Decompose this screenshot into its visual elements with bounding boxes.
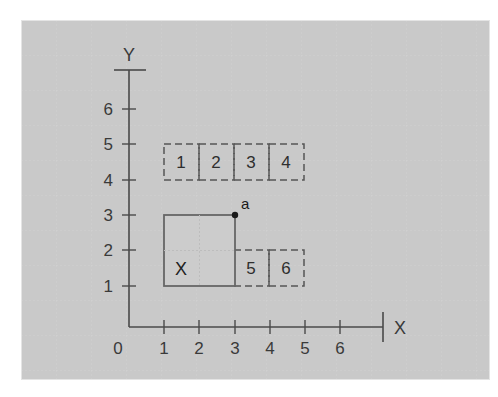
- point-a-dot: [232, 212, 238, 218]
- x-tick-label-2: 2: [194, 339, 203, 358]
- origin-label: 0: [113, 339, 122, 358]
- point-a-group: a: [232, 195, 250, 218]
- y-axis: 1 2 3 4 5 6 Y: [104, 45, 146, 327]
- y-tick-label-2: 2: [104, 241, 113, 260]
- x-axis-label: X: [394, 318, 406, 338]
- x-tick-label-4: 4: [265, 339, 274, 358]
- dashed-cell-1-label: 1: [176, 153, 185, 172]
- y-tick-label-6: 6: [104, 100, 113, 119]
- shaded-square-group: X: [164, 215, 235, 286]
- dashed-cell-group-bottom: 5 6: [234, 250, 304, 286]
- coordinate-plot: 1 2 3 4 5 6 X a: [0, 0, 498, 397]
- dashed-cell-group-top: 1 2 3 4: [164, 144, 304, 180]
- dashed-cell-5-label: 5: [246, 259, 255, 278]
- y-tick-label-5: 5: [104, 135, 113, 154]
- shaded-square-label: X: [175, 259, 187, 279]
- x-tick-label-1: 1: [159, 339, 168, 358]
- x-tick-label-3: 3: [230, 339, 239, 358]
- dashed-cell-4-label: 4: [281, 153, 290, 172]
- y-tick-label-4: 4: [104, 171, 113, 190]
- y-tick-label-3: 3: [104, 206, 113, 225]
- dashed-cell-6-label: 6: [281, 259, 290, 278]
- dashed-cell-3-label: 3: [246, 153, 255, 172]
- y-tick-label-1: 1: [104, 277, 113, 296]
- figure-canvas: 1 2 3 4 5 6 X a: [0, 0, 498, 397]
- x-axis: 1 2 3 4 5 6 X: [129, 312, 406, 358]
- y-axis-label: Y: [123, 45, 135, 65]
- x-tick-label-5: 5: [300, 339, 309, 358]
- point-a-label: a: [241, 195, 250, 212]
- dashed-cell-2-label: 2: [211, 153, 220, 172]
- x-tick-label-6: 6: [335, 339, 344, 358]
